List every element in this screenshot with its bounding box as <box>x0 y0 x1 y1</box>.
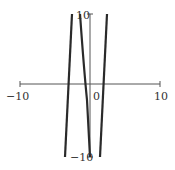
y-label-max: 10 <box>76 9 90 22</box>
function-graph: −10 0 10 10 −10 <box>0 0 175 170</box>
x-label-max: 10 <box>154 90 168 103</box>
y-label-min: −10 <box>70 151 93 164</box>
curve-left-branch <box>65 14 72 157</box>
curve-right-branch <box>100 14 107 157</box>
x-label-min: −10 <box>6 90 29 103</box>
curve-middle-branch <box>80 14 90 157</box>
x-label-zero: 0 <box>93 90 100 103</box>
